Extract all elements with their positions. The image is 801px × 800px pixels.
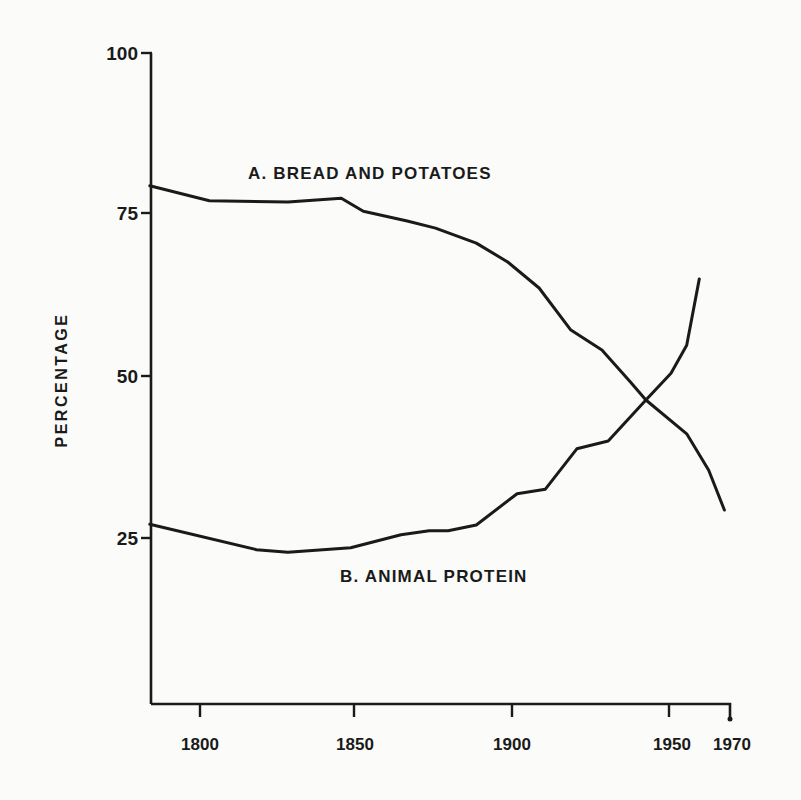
x-tick-label-1970: 1970 [713,735,751,754]
y-tick-label-25: 25 [117,528,139,549]
y-tick-label-75: 75 [117,203,139,224]
x-axis [151,704,730,718]
y-axis-tick-labels: 100 75 50 25 [106,43,138,549]
series-label-bread-and-potatoes: A. BREAD AND POTATOES [248,164,492,183]
line-chart: 100 75 50 25 1800 1850 1900 1950 1970 PE… [0,0,801,800]
x-tick-label-1900: 1900 [493,735,531,754]
y-tick-label-100: 100 [106,43,138,64]
x-axis-ticks [200,704,733,722]
y-axis-label: PERCENTAGE [53,313,70,448]
x-tick-label-1800: 1800 [181,735,219,754]
x-tick-label-1850: 1850 [336,735,374,754]
series-line-animal-protein [150,279,700,552]
x-tick-1970-dot [728,717,733,722]
x-tick-label-1950: 1950 [653,735,691,754]
series-line-bread-and-potatoes [150,186,725,510]
x-axis-tick-labels: 1800 1850 1900 1950 1970 [181,735,751,754]
y-tick-label-50: 50 [117,366,138,387]
series-label-animal-protein: B. ANIMAL PROTEIN [340,567,528,586]
